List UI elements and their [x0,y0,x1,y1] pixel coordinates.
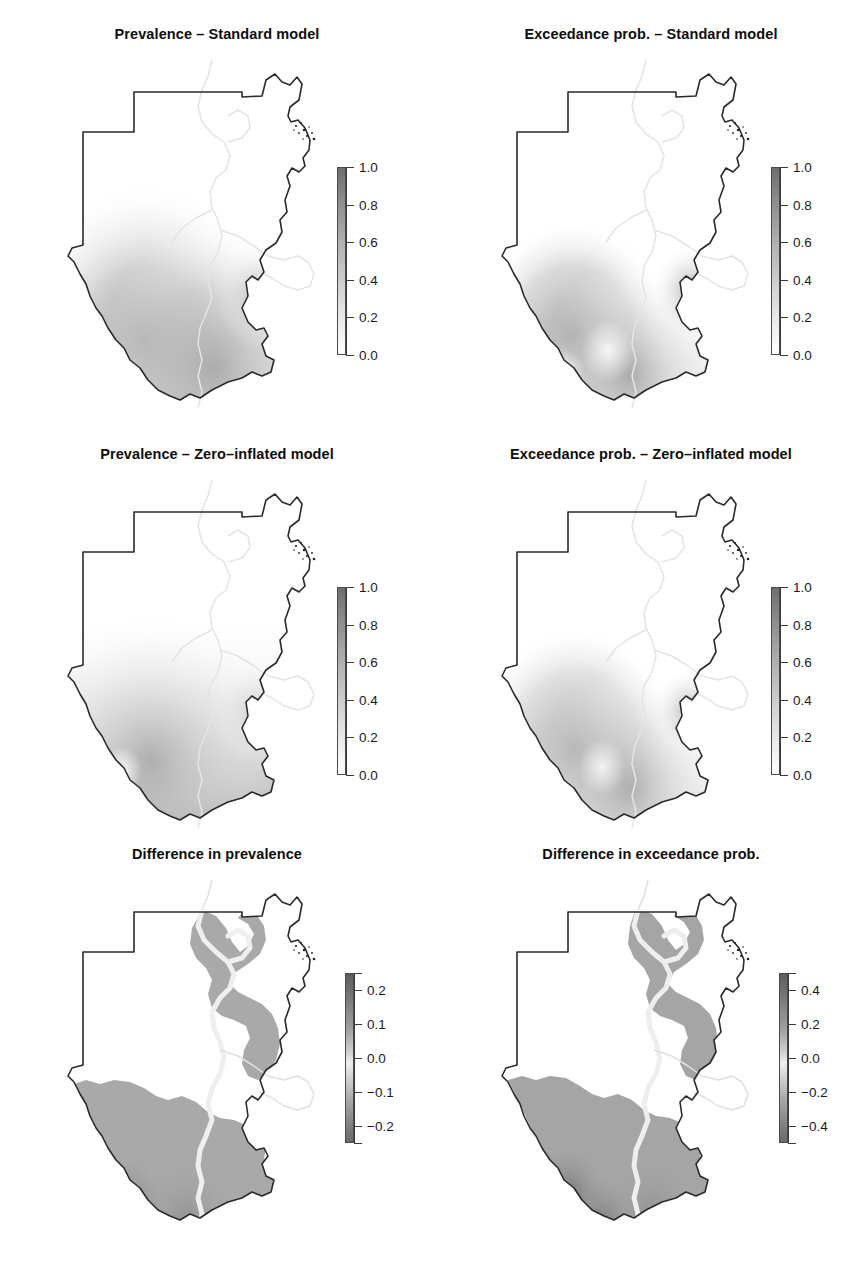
colorbar-tick [788,1092,796,1093]
colorbar-tick [346,587,354,588]
map-prevalence-standard [52,60,342,410]
colorbar-tick [780,355,788,356]
colorbar-axis-line [780,587,781,775]
colorbar-gradient [337,587,346,775]
panel-exceedance-zero-inflated: Exceedance prob. – Zero–inflated model [434,446,868,846]
colorbar-tick [788,990,796,991]
colorbar-tick-label: 0.0 [793,768,812,783]
colorbar-tick [788,1126,796,1127]
colorbar-tick-label: 0.6 [793,655,812,670]
colorbar-tick [780,700,788,701]
colorbar-tick [780,280,788,281]
raster-surface [52,60,342,410]
colorbar-tick [788,1058,796,1059]
colorbar-tick [346,700,354,701]
colorbar-tick-label: 0.0 [793,348,812,363]
cropped-header-text [18,0,198,8]
colorbar-tick [780,205,788,206]
colorbar-gradient [771,587,780,775]
colorbar-tick-label: 0.2 [793,730,812,745]
colorbar-tick [346,662,354,663]
raster-surface [486,480,776,830]
colorbar-difference-exceedance: 0.4 0.2 0.0 −0.2 −0.4 [779,973,839,1143]
colorbar-cap-bottom [354,1143,362,1144]
panel-title: Difference in exceedance prob. [434,846,868,862]
panel-exceedance-standard: Exceedance prob. – Standard model [434,26,868,426]
colorbar-prevalence-zero-inflated: 1.0 0.8 0.6 0.4 0.2 0.0 [337,587,397,775]
colorbar-gradient [771,167,780,355]
colorbar-tick [780,242,788,243]
colorbar-tick-label: 0.2 [793,310,812,325]
colorbar-tick-label: −0.2 [367,1119,394,1134]
colorbar-tick-label: 0.8 [359,197,378,212]
panel-title: Difference in prevalence [0,846,434,862]
colorbar-exceedance-zero-inflated: 1.0 0.8 0.6 0.4 0.2 0.0 [771,587,831,775]
panel-title: Prevalence – Zero–inflated model [0,446,434,462]
colorbar-tick-label: 0.4 [793,692,812,707]
raster-surface [52,880,342,1250]
colorbar-tick-label: 1.0 [359,160,378,175]
sudan-map-svg [52,880,342,1250]
colorbar-cap-top [788,973,796,974]
colorbar-tick [346,205,354,206]
colorbar-axis-line [346,587,347,775]
colorbar-tick-label: 1.0 [793,160,812,175]
colorbar-tick-label: 0.6 [359,235,378,250]
colorbar-tick-label: 0.4 [359,272,378,287]
panel-prevalence-standard: Prevalence – Standard model [0,26,434,426]
colorbar-tick [346,355,354,356]
colorbar-tick [346,242,354,243]
panel-title: Prevalence – Standard model [0,26,434,42]
colorbar-axis-line [346,167,347,355]
panel-difference-exceedance: Difference in exceedance prob. [434,846,868,1266]
colorbar-tick [788,1024,796,1025]
colorbar-tick [354,1058,362,1059]
colorbar-tick-label: 0.4 [793,272,812,287]
colorbar-tick-label: 0.1 [367,1017,386,1032]
colorbar-gradient [345,973,354,1143]
colorbar-tick [780,737,788,738]
colorbar-tick [780,317,788,318]
raster-surface [486,880,776,1250]
colorbar-tick-label: 1.0 [359,580,378,595]
panel-difference-prevalence: Difference in prevalence [0,846,434,1266]
colorbar-exceedance-standard: 1.0 0.8 0.6 0.4 0.2 0.0 [771,167,831,355]
colorbar-difference-prevalence: 0.2 0.1 0.0 −0.1 −0.2 [345,973,405,1143]
colorbar-tick-label: 0.2 [359,730,378,745]
colorbar-tick-label: 0.0 [359,348,378,363]
colorbar-tick [346,167,354,168]
panel-title: Exceedance prob. – Zero–inflated model [434,446,868,462]
colorbar-tick-label: −0.1 [367,1085,394,1100]
colorbar-tick-label: 0.0 [367,1051,386,1066]
sudan-map-svg [52,480,342,830]
panel-title: Exceedance prob. – Standard model [434,26,868,42]
colorbar-tick-label: 0.2 [367,983,386,998]
sudan-map-svg [486,880,776,1250]
map-difference-exceedance [486,880,776,1250]
map-prevalence-zero-inflated [52,480,342,830]
colorbar-tick-label: 1.0 [793,580,812,595]
colorbar-gradient [779,973,788,1143]
raster-surface [52,480,342,830]
colorbar-tick [346,280,354,281]
colorbar-tick-label: 0.6 [793,235,812,250]
raster-surface [486,60,776,410]
colorbar-tick [354,1126,362,1127]
colorbar-tick-label: −0.2 [801,1085,828,1100]
sudan-map-svg [486,60,776,410]
map-difference-prevalence [52,880,342,1250]
panel-prevalence-zero-inflated: Prevalence – Zero–inflated model [0,446,434,846]
colorbar-tick [780,167,788,168]
colorbar-tick-label: 0.8 [793,617,812,632]
colorbar-tick [346,737,354,738]
colorbar-prevalence-standard: 1.0 0.8 0.6 0.4 0.2 0.0 [337,167,397,355]
colorbar-tick [346,317,354,318]
colorbar-tick [780,587,788,588]
colorbar-tick-label: 0.2 [359,310,378,325]
colorbar-gradient [337,167,346,355]
colorbar-tick [354,990,362,991]
sudan-map-svg [52,60,342,410]
colorbar-tick-label: 0.4 [801,983,820,998]
colorbar-axis-line [780,167,781,355]
map-exceedance-zero-inflated [486,480,776,830]
